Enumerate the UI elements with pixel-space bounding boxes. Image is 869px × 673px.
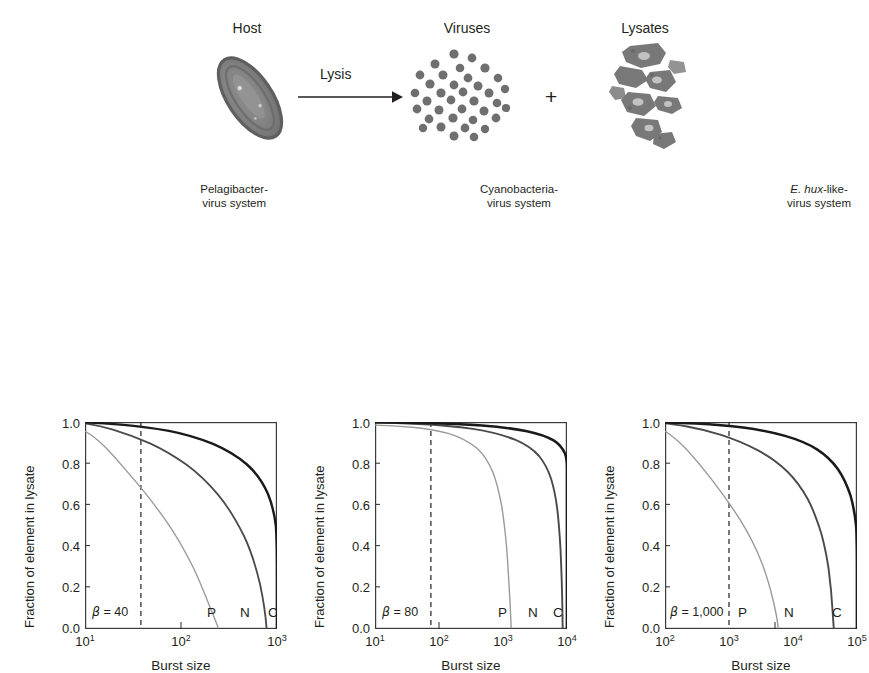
x-tick-1-exp: 2: [444, 633, 449, 643]
x-tick-0-label: 10: [655, 634, 669, 649]
panel-title-line1: Cyanobacteria-: [480, 183, 558, 195]
y-tick-2: 0.4: [620, 539, 660, 554]
y-tick-1: 0.2: [40, 580, 80, 595]
beta-equals: =: [393, 605, 404, 619]
curve-P: [375, 425, 511, 628]
y-tick-4: 0.8: [620, 457, 660, 472]
x-tick-0-label: 10: [365, 634, 379, 649]
x-tick-0-exp: 1: [90, 633, 95, 643]
beta-value: 1,000: [692, 605, 723, 619]
panel-title-line2: virus system: [787, 197, 851, 209]
x-tick-2-exp: 3: [282, 633, 287, 643]
curve-N: [375, 423, 563, 629]
panel-title-line2: virus system: [487, 197, 551, 209]
y-tick-2: 0.4: [40, 539, 80, 554]
panel-title-cyanobacteria: Cyanobacteria- virus system: [480, 182, 558, 210]
panel-title-species: E. hux: [790, 183, 823, 195]
x-tick-1-exp: 2: [186, 633, 191, 643]
x-tick-1-label: 10: [429, 634, 443, 649]
curve-C: [665, 422, 857, 628]
x-tick-0: 101: [357, 633, 393, 649]
beta-annotation: β = 80: [382, 604, 418, 619]
y-tick-4: 0.8: [40, 457, 80, 472]
y-tick-5: 1.0: [620, 416, 660, 431]
y-tick-2: 0.4: [330, 539, 370, 554]
beta-symbol: β: [670, 604, 678, 619]
curve-label-C: C: [268, 605, 278, 620]
panel-title-ehux: E. hux-like- virus system: [787, 182, 851, 210]
plot-area-ehux: [665, 422, 857, 629]
x-tick-1: 102: [421, 633, 457, 649]
curve-C: [85, 422, 277, 628]
panel-title-line1-rest: -like-: [823, 183, 848, 195]
x-tick-1: 103: [711, 633, 747, 649]
panel-title-line2: virus system: [202, 197, 266, 209]
y-tick-3: 0.6: [40, 498, 80, 513]
curve-C: [375, 422, 567, 628]
x-tick-2-exp: 3: [508, 633, 513, 643]
y-axis-label: Fraction of element in lysate: [602, 465, 617, 628]
y-tick-5: 1.0: [40, 416, 80, 431]
beta-value: 40: [114, 605, 128, 619]
x-tick-3: 105: [839, 633, 869, 649]
beta-equals: =: [103, 605, 114, 619]
curve-label-P: P: [738, 605, 747, 620]
x-tick-3-exp: 5: [862, 633, 867, 643]
curve-label-N: N: [240, 605, 250, 620]
beta-value: 80: [404, 605, 418, 619]
curve-label-P: P: [498, 605, 507, 620]
x-tick-3-label: 10: [847, 634, 861, 649]
beta-symbol: β: [382, 604, 390, 619]
x-tick-0-exp: 2: [670, 633, 675, 643]
x-tick-1-label: 10: [719, 634, 733, 649]
curve-label-C: C: [553, 605, 563, 620]
y-tick-3: 0.6: [330, 498, 370, 513]
x-axis-label: Burst size: [375, 658, 567, 673]
x-tick-2: 103: [485, 633, 521, 649]
chart-panel-cyanobacteria: Cyanobacteria- virus system Fraction of …: [290, 180, 580, 522]
curve-label-N: N: [784, 605, 794, 620]
y-tick-1: 0.2: [620, 580, 660, 595]
x-tick-2-label: 10: [493, 634, 507, 649]
plot-area-pelagibacter: [85, 422, 277, 629]
x-tick-3: 104: [549, 633, 585, 649]
plus-sign: +: [545, 86, 557, 107]
panel-title-pelagibacter: Pelagibacter- virus system: [200, 182, 268, 210]
beta-annotation: β = 1,000: [670, 604, 724, 619]
y-axis-label: Fraction of element in lysate: [312, 465, 327, 628]
cell-debris-icon: [600, 42, 692, 152]
panel-title-line1: Pelagibacter-: [200, 183, 268, 195]
curve-label-N: N: [528, 605, 538, 620]
lysis-arrow-label: Lysis: [320, 66, 351, 82]
x-tick-3-label: 10: [557, 634, 571, 649]
x-tick-2: 103: [259, 633, 295, 649]
curve-label-P: P: [207, 605, 216, 620]
virus-particle-cluster-icon: [410, 48, 520, 148]
x-tick-2-exp: 4: [798, 633, 803, 643]
x-tick-2-label: 10: [783, 634, 797, 649]
y-tick-1: 0.2: [330, 580, 370, 595]
x-tick-1-exp: 3: [734, 633, 739, 643]
curve-label-C: C: [832, 605, 842, 620]
y-tick-3: 0.6: [620, 498, 660, 513]
y-tick-5: 1.0: [330, 416, 370, 431]
chart-panel-pelagibacter: Pelagibacter- virus system Fraction of e…: [0, 180, 290, 522]
viruses-label: Viruses: [412, 20, 522, 36]
beta-equals: =: [681, 605, 692, 619]
x-tick-0: 101: [67, 633, 103, 649]
lysis-schematic: Host Viruses Lysates Lysis: [0, 0, 869, 180]
beta-symbol: β: [92, 604, 100, 619]
beta-annotation: β = 40: [92, 604, 128, 619]
x-tick-2: 104: [775, 633, 811, 649]
chart-panel-ehux: E. hux-like- virus system Fraction of el…: [580, 180, 869, 522]
host-label: Host: [192, 20, 302, 36]
lysates-label: Lysates: [590, 20, 700, 36]
y-tick-4: 0.8: [330, 457, 370, 472]
x-tick-1-label: 10: [171, 634, 185, 649]
x-axis-label: Burst size: [665, 658, 857, 673]
x-tick-0: 102: [647, 633, 683, 649]
plot-area-cyanobacteria: [375, 422, 567, 629]
y-axis-label: Fraction of element in lysate: [22, 465, 37, 628]
curve-P: [85, 431, 218, 628]
bacterium-cell-icon: [205, 48, 295, 148]
